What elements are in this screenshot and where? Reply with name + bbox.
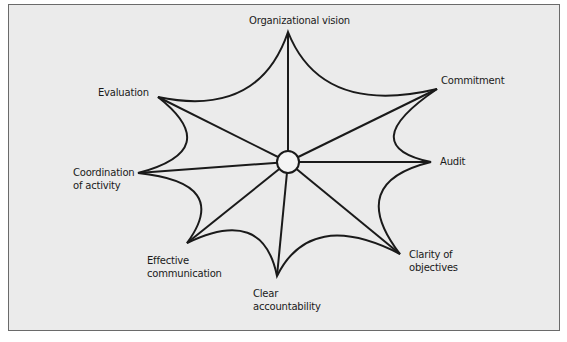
spoke-coordination-of-activity [138,162,288,173]
label-audit: Audit [440,155,465,168]
label-clear-accountability: Clear accountability [253,287,321,313]
spoke-evaluation [158,97,288,162]
label-organizational-vision: Organizational vision [249,14,350,27]
center-hub [277,151,299,173]
label-commitment: Commitment [441,74,504,87]
spoke-clarity-of-objectives [288,162,400,254]
spoke-commitment [288,89,437,162]
label-effective-communication: Effective communication [147,254,222,280]
label-coordination-of-activity: Coordination of activity [73,166,135,192]
label-evaluation: Evaluation [98,86,149,99]
spoke-clear-accountability [277,162,288,276]
label-clarity-of-objectives: Clarity of objectives [409,248,458,274]
